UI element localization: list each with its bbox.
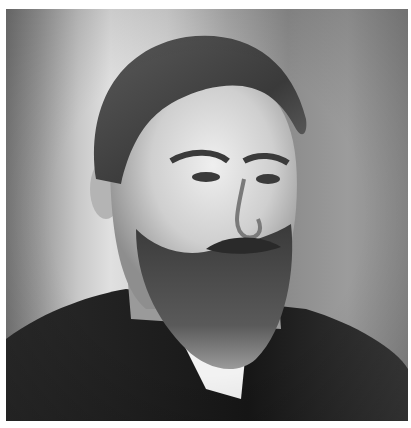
vignette [6,9,408,421]
portrait-photo [6,9,408,421]
